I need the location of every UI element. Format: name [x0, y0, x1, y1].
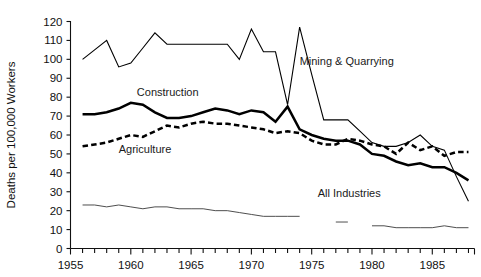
series-line-all-industries — [372, 226, 468, 228]
x-tick-label: 1975 — [299, 259, 325, 271]
series-label-all-industries: All Industries — [318, 187, 381, 199]
y-tick-label: 50 — [50, 148, 63, 160]
y-axis-title-text: Deaths per 100,000 Workers — [5, 61, 17, 208]
data-series-group — [83, 27, 469, 228]
y-tick-label: 40 — [50, 167, 63, 179]
x-tick-label: 1960 — [118, 259, 144, 271]
axis-lines — [71, 21, 475, 249]
y-axis-ticks: 0102030405060708090100110120 — [43, 16, 70, 255]
x-tick-label: 1955 — [58, 259, 84, 271]
y-tick-label: 10 — [50, 224, 63, 236]
y-axis-title: Deaths per 100,000 Workers — [5, 61, 17, 208]
x-tick-label: 1985 — [419, 259, 445, 271]
y-tick-label: 70 — [50, 110, 63, 122]
y-tick-label: 120 — [43, 16, 62, 28]
series-label-construction: Construction — [137, 86, 199, 98]
x-tick-label: 1970 — [239, 259, 265, 271]
series-line-all-industries — [83, 205, 300, 216]
x-axis-ticks: 1955196019651970197519801985 — [58, 249, 475, 271]
x-tick-label: 1965 — [178, 259, 204, 271]
chart-container: Deaths per 100,000 Workers 0102030405060… — [0, 0, 481, 277]
x-tick-label: 1980 — [359, 259, 385, 271]
y-tick-label: 100 — [43, 53, 62, 65]
series-line-mining-quarrying — [83, 27, 469, 201]
line-chart: Deaths per 100,000 Workers 0102030405060… — [0, 0, 481, 277]
y-tick-label: 0 — [56, 243, 62, 255]
y-tick-label: 110 — [44, 34, 62, 46]
y-tick-label: 90 — [50, 72, 63, 84]
series-label-agriculture: Agriculture — [119, 143, 172, 155]
series-label-mining-quarrying: Mining & Quarrying — [300, 55, 394, 67]
y-tick-label: 60 — [50, 129, 63, 141]
y-tick-label: 30 — [50, 186, 63, 198]
y-tick-label: 80 — [50, 91, 63, 103]
y-tick-label: 20 — [50, 205, 63, 217]
